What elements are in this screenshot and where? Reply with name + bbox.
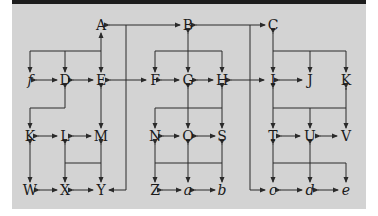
node-K2: K <box>25 129 35 143</box>
node-H: H <box>216 73 228 87</box>
node-V: V <box>341 129 351 143</box>
node-O: O <box>182 129 193 143</box>
node-L: L <box>60 129 69 143</box>
node-F: F <box>150 73 160 87</box>
node-b: b <box>218 183 227 197</box>
node-C: C <box>268 18 279 32</box>
node-J: J <box>307 73 313 87</box>
node-U: U <box>304 129 316 143</box>
node-G: G <box>182 73 193 87</box>
node-S: S <box>217 129 227 143</box>
node-f: f <box>27 73 32 87</box>
node-c: c <box>269 183 277 197</box>
node-e: e <box>342 183 350 197</box>
node-M: M <box>94 129 108 143</box>
node-Z: Z <box>150 183 160 197</box>
node-D: D <box>59 73 70 87</box>
node-N: N <box>149 129 161 143</box>
node-E: E <box>96 73 106 87</box>
node-W: W <box>23 183 37 197</box>
node-d: d <box>306 183 315 197</box>
node-A: A <box>96 18 106 32</box>
node-T: T <box>268 129 277 143</box>
node-Y: Y <box>96 183 105 197</box>
node-B: B <box>183 18 193 32</box>
node-a: a <box>184 183 192 197</box>
node-X: X <box>60 183 70 197</box>
node-K1: K <box>341 73 351 87</box>
node-I: I <box>270 73 276 87</box>
